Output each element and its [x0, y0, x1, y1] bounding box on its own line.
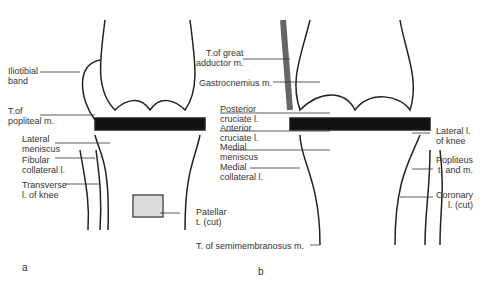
label-iliotibial-band: Iliotibial band: [8, 66, 38, 86]
label-medial-meniscus: Medial meniscus: [220, 142, 258, 162]
label-popliteal-tendon: T.of popliteal m.: [8, 106, 54, 126]
label-coronary: Coronary l. (cut): [436, 190, 473, 210]
panel-label-a: a: [22, 262, 28, 273]
label-popliteus: Popliteus t. and m.: [436, 155, 473, 175]
label-lateral-ligament-knee: Lateral l. of knee: [436, 126, 471, 146]
label-great-adductor: T.of great adductor m.: [196, 48, 244, 68]
label-medial-collateral: Medial collateral l.: [220, 162, 263, 182]
panel-label-b: b: [258, 266, 264, 277]
label-transverse-ligament: Transverse l. of knee: [22, 180, 67, 200]
label-patellar-tendon: Patellar t. (cut): [196, 207, 227, 227]
label-gastrocnemius: Gastrocnemius m.: [199, 78, 272, 88]
label-fibular-collateral: Fibular collateral l.: [22, 155, 65, 175]
label-posterior-cruciate: Posterior cruciate l.: [220, 104, 259, 124]
label-anterior-cruciate: Anterior cruciate l.: [220, 123, 259, 143]
label-semimembranosus: T. of semimembranosus m.: [196, 241, 304, 251]
label-lateral-meniscus: Lateral meniscus: [22, 134, 60, 154]
